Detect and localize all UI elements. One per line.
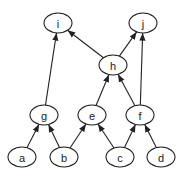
node-f: f [126, 105, 154, 125]
node-label: e [89, 110, 95, 122]
node-label: d [158, 152, 164, 164]
edge-f-to-h [118, 74, 135, 105]
node-h: h [99, 55, 127, 75]
node-label: i [57, 18, 59, 30]
edge-h-to-j [119, 32, 136, 56]
edge-b-to-e [70, 124, 86, 148]
node-c: c [106, 147, 134, 167]
node-j: j [129, 13, 157, 33]
edge-d-to-f [145, 124, 157, 147]
node-g: g [30, 105, 58, 125]
edge-a-to-g [27, 124, 39, 147]
edge-e-to-h [96, 75, 109, 106]
edge-c-to-e [98, 124, 114, 148]
node-i: i [44, 13, 72, 33]
edge-f-to-j [140, 33, 142, 105]
node-d: d [147, 147, 175, 167]
nodes: ijhgefabcd [8, 13, 175, 167]
node-label: h [110, 60, 116, 72]
edges [27, 30, 156, 148]
directed-graph: ijhgefabcd [0, 0, 186, 177]
node-b: b [50, 147, 78, 167]
node-e: e [78, 105, 106, 125]
node-label: g [41, 110, 47, 122]
edge-c-to-f [125, 124, 136, 147]
node-label: c [117, 152, 123, 164]
edge-g-to-i [46, 33, 57, 105]
edge-b-to-g [49, 124, 60, 147]
edge-h-to-i [68, 30, 104, 57]
node-a: a [8, 147, 36, 167]
node-label: j [141, 18, 144, 30]
node-label: b [61, 152, 67, 164]
node-label: a [19, 152, 26, 164]
